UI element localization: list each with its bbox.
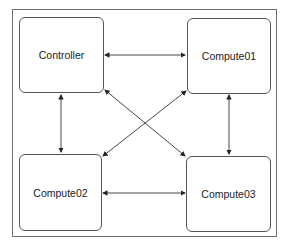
node-label: Compute03 [201,188,255,200]
node-compute03: Compute03 [186,156,271,232]
node-compute02: Compute02 [19,154,102,231]
node-controller: Controller [19,17,104,93]
node-label: Compute02 [33,187,87,199]
node-label: Controller [39,49,85,61]
node-label: Compute01 [202,50,256,62]
node-compute01: Compute01 [187,18,271,94]
